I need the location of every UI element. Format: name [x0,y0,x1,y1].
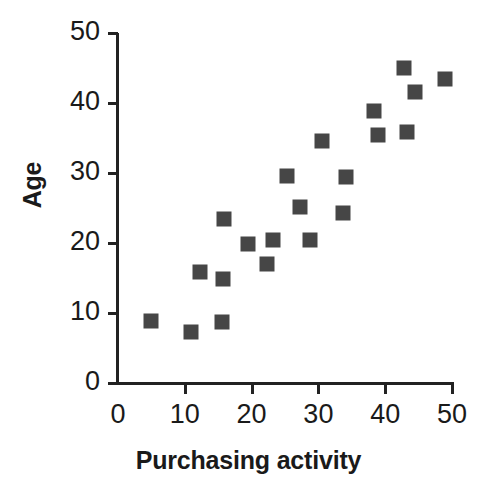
x-tick-20 [251,384,254,394]
data-point [408,84,423,99]
data-point [293,200,308,215]
x-tick-label-50: 50 [427,401,477,428]
data-point [339,170,354,185]
data-point [144,314,159,329]
data-point [437,72,452,87]
x-axis-spine [116,382,454,385]
data-point [241,237,256,252]
data-point [215,271,230,286]
x-tick-label-20: 20 [227,401,277,428]
y-axis-spine [116,33,119,385]
y-tick-50 [108,32,118,35]
data-point [259,257,274,272]
y-tick-label-50: 50 [40,18,100,45]
data-point [215,315,230,330]
y-tick-20 [108,242,118,245]
data-point [314,133,329,148]
y-tick-label-20: 20 [40,228,100,255]
x-tick-label-0: 0 [93,401,143,428]
y-tick-label-10: 10 [40,298,100,325]
x-tick-label-10: 10 [160,401,210,428]
y-tick-label-30: 30 [40,158,100,185]
x-tick-label-40: 40 [360,401,410,428]
x-tick-50 [451,384,454,394]
x-tick-10 [184,384,187,394]
data-point [336,205,351,220]
x-tick-40 [384,384,387,394]
x-axis-label: Purchasing activity [0,446,497,475]
data-point [280,168,295,183]
data-point [265,233,280,248]
y-tick-label-0: 0 [40,368,100,395]
scatter-plot-figure: Age Purchasing activity 01020304050 0102… [0,0,497,503]
x-tick-30 [317,384,320,394]
data-point [216,212,231,227]
plot-area: 01020304050 01020304050 [118,33,452,383]
data-point [184,324,199,339]
y-tick-0 [108,382,118,385]
y-tick-40 [108,102,118,105]
y-tick-10 [108,312,118,315]
data-point [193,264,208,279]
data-point [303,233,318,248]
y-tick-label-40: 40 [40,88,100,115]
y-tick-30 [108,172,118,175]
data-point [370,128,385,143]
data-point [399,124,414,139]
data-point [396,61,411,76]
x-tick-label-30: 30 [293,401,343,428]
data-point [366,104,381,119]
